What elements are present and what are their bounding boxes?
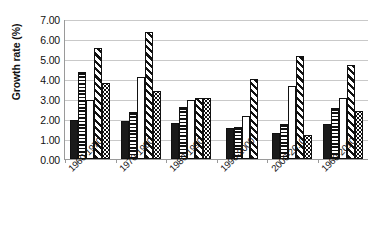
bar-series-5-dotted[interactable] — [102, 83, 110, 159]
y-tick-label: 2.00 — [22, 114, 60, 126]
bar-group — [65, 20, 116, 159]
y-axis-tick-labels: 0.001.002.003.004.005.006.007.00 — [22, 0, 60, 235]
bar-series-5-dotted[interactable] — [153, 91, 161, 159]
y-tick-label: 7.00 — [22, 14, 60, 26]
bar-group — [318, 20, 369, 159]
y-tick-label: 0.00 — [22, 154, 60, 166]
y-tick-label: 1.00 — [22, 134, 60, 146]
plot-area — [64, 20, 368, 160]
bar-group — [217, 20, 268, 159]
y-tick-label: 6.00 — [22, 34, 60, 46]
bar-series-5-dotted[interactable] — [203, 98, 211, 159]
bar-group — [267, 20, 318, 159]
y-tick-label: 3.00 — [22, 94, 60, 106]
bar-series-1-solid-black[interactable] — [121, 121, 129, 159]
bar-series-5-dotted[interactable] — [304, 135, 312, 159]
x-axis-tick-labels: 1960-19701970-19801980-19901990-20002000… — [64, 160, 368, 235]
bar-group — [116, 20, 167, 159]
bar-chart: Growth rate (%) 0.001.002.003.004.005.00… — [0, 0, 374, 235]
y-tick-label: 5.00 — [22, 54, 60, 66]
bar-group — [166, 20, 217, 159]
bar-series-5-dotted[interactable] — [355, 111, 363, 159]
bar-groups — [65, 20, 368, 159]
y-axis-title: Growth rate (%) — [10, 2, 22, 122]
y-tick-label: 4.00 — [22, 74, 60, 86]
